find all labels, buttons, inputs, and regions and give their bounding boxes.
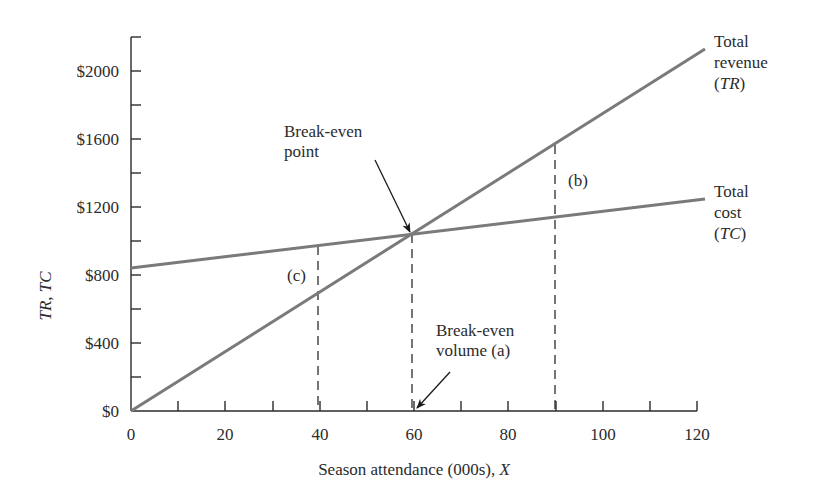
svg-text:(TC): (TC)	[714, 224, 746, 243]
x-tick-20: 20	[217, 425, 234, 444]
svg-text:Total: Total	[714, 182, 749, 201]
y-tick-800: $800	[85, 266, 119, 285]
y-tick-labels: $2000 $1600 $1200 $800 $400 $0	[77, 62, 120, 421]
tr-line	[131, 49, 705, 411]
bep-arrow	[375, 160, 410, 232]
tr-legend: Total revenue (TR)	[714, 32, 768, 93]
x-tick-120: 120	[684, 425, 710, 444]
x-tick-100: 100	[590, 425, 616, 444]
y-tick-2000: $2000	[77, 62, 120, 81]
y-tick-400: $400	[85, 334, 119, 353]
y-axis	[131, 37, 141, 411]
bep-label-2: point	[284, 142, 319, 161]
guide-lines	[318, 145, 555, 411]
x-axis	[131, 401, 697, 411]
bev-label-1: Break-even	[436, 321, 515, 340]
y-tick-1600: $1600	[77, 130, 120, 149]
bep-label-1: Break-even	[284, 122, 363, 141]
break-even-chart: $2000 $1600 $1200 $800 $400 $0 0 20 40 6…	[0, 0, 813, 499]
tc-legend: Total cost (TC)	[714, 182, 749, 243]
label-b: (b)	[568, 171, 588, 190]
bev-arrow	[417, 372, 450, 408]
svg-text:Total: Total	[714, 32, 749, 51]
x-tick-80: 80	[500, 425, 517, 444]
x-tick-labels: 0 20 40 60 80 100 120	[127, 425, 710, 444]
y-axis-title: TR, TC	[36, 271, 55, 321]
svg-text:cost: cost	[714, 203, 742, 222]
x-tick-60: 60	[406, 425, 423, 444]
y-tick-1200: $1200	[77, 198, 120, 217]
bev-label-2: volume (a)	[436, 341, 510, 360]
x-tick-40: 40	[312, 425, 329, 444]
tc-line	[131, 199, 705, 268]
y-tick-0: $0	[102, 402, 119, 421]
x-axis-title: Season attendance (000s), X	[318, 460, 510, 479]
svg-text:revenue: revenue	[714, 53, 768, 72]
x-tick-0: 0	[127, 425, 136, 444]
svg-text:(TR): (TR)	[714, 74, 745, 93]
label-c: (c)	[287, 266, 306, 285]
